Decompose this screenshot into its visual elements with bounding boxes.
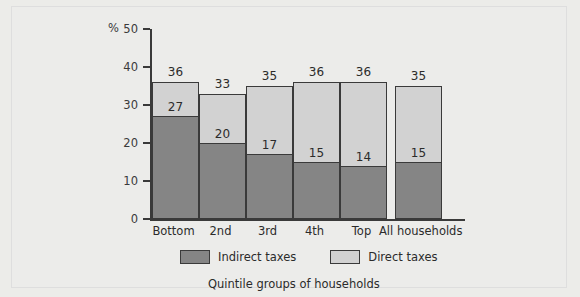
bar-segment-indirect[interactable] <box>152 116 199 219</box>
table-row[interactable]: 3627 <box>152 82 199 219</box>
bar-total-label: 33 <box>199 77 246 91</box>
table-row[interactable]: 3614 <box>340 82 387 219</box>
y-tick-50: 50 <box>143 28 150 30</box>
y-tick-label-40: 40 <box>123 60 138 74</box>
bar-total-label: 36 <box>152 65 199 79</box>
bar-indirect-label: 27 <box>152 100 199 114</box>
bar-segment-indirect[interactable] <box>199 143 246 219</box>
chart-frame: % 01020304050 362733203517361536143515 B… <box>11 6 567 288</box>
bar-total-label: 36 <box>340 65 387 79</box>
legend-label-direct: Direct taxes <box>368 250 437 264</box>
table-row[interactable]: 3515 <box>395 86 442 219</box>
legend-swatch-direct <box>330 250 360 264</box>
y-tick-0: 0 <box>143 218 150 220</box>
bar-indirect-label: 20 <box>199 127 246 141</box>
bar-total-label: 35 <box>395 69 442 83</box>
legend-item-indirect[interactable]: Indirect taxes <box>180 250 296 264</box>
y-tick-label-20: 20 <box>123 136 138 150</box>
y-tick-10: 10 <box>143 180 150 182</box>
x-axis-line <box>150 219 465 221</box>
y-tick-label-10: 10 <box>123 174 138 188</box>
y-tick-40: 40 <box>143 66 150 68</box>
bar-total-label: 35 <box>246 69 293 83</box>
y-tick-label-50: 50 <box>123 22 138 36</box>
bar-segment-indirect[interactable] <box>293 162 340 219</box>
y-tick-20: 20 <box>143 142 150 144</box>
bar-indirect-label: 15 <box>293 146 340 160</box>
bar-indirect-label: 14 <box>340 150 387 164</box>
table-row[interactable]: 3320 <box>199 94 246 219</box>
table-row[interactable]: 3517 <box>246 86 293 219</box>
y-tick-label-30: 30 <box>123 98 138 112</box>
table-row[interactable]: 3615 <box>293 82 340 219</box>
bar-indirect-label: 15 <box>395 146 442 160</box>
legend-label-indirect: Indirect taxes <box>218 250 296 264</box>
bar-segment-indirect[interactable] <box>340 166 387 219</box>
chart-page: % 01020304050 362733203517361536143515 B… <box>0 0 580 297</box>
chart-legend: Indirect taxesDirect taxes <box>180 250 437 264</box>
bar-group: 362733203517361536143515 <box>152 29 452 219</box>
legend-swatch-indirect <box>180 250 210 264</box>
bar-segment-indirect[interactable] <box>395 162 442 219</box>
x-axis-label-all-households: All households <box>379 224 454 238</box>
legend-item-direct[interactable]: Direct taxes <box>330 250 437 264</box>
y-axis-unit-label: % <box>108 21 119 35</box>
y-tick-30: 30 <box>143 104 150 106</box>
bar-indirect-label: 17 <box>246 138 293 152</box>
bar-total-label: 36 <box>293 65 340 79</box>
bar-segment-indirect[interactable] <box>246 154 293 219</box>
chart-caption: Quintile groups of households <box>208 277 380 291</box>
plot-area: % 01020304050 362733203517361536143515 B… <box>150 29 450 221</box>
